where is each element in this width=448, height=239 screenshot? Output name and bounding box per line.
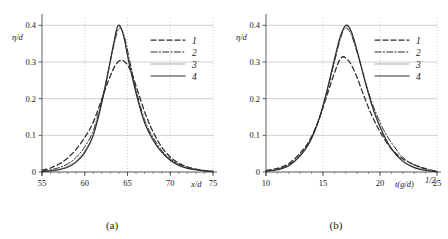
x-tick-label: 65 (123, 178, 132, 188)
y-tick-label: 0.3 (25, 57, 36, 67)
figure-container: 00.10.20.30.45560657075η/dx/d1234 (a) 00… (0, 0, 448, 239)
x-tick-label: 15 (319, 178, 328, 188)
y-axis-title: η/d (12, 32, 24, 42)
panel-b-caption: (b) (224, 219, 448, 231)
x-tick-label: 20 (376, 178, 385, 188)
curve-1 (42, 60, 213, 171)
x-axis-title: x/d (190, 179, 202, 189)
x-tick-label: 75 (209, 178, 218, 188)
x-axis-title-exponent: 1/2 (425, 175, 437, 185)
y-tick-label: 0.4 (25, 20, 36, 30)
x-tick-label: 10 (262, 178, 271, 188)
panel-a: 00.10.20.30.45560657075η/dx/d1234 (a) (0, 0, 224, 239)
curve-2 (266, 28, 437, 171)
legend-label-1: 1 (416, 36, 421, 46)
y-tick-label: 0.3 (249, 57, 260, 67)
y-tick-label: 0.2 (249, 94, 260, 104)
plot-area: 00.10.20.30.45560657075η/dx/d1234 (12, 14, 217, 189)
x-tick-label: 55 (38, 178, 47, 188)
y-tick-label: 0.2 (25, 94, 36, 104)
x-axis-title: t(g/d) (395, 179, 414, 189)
plot-area: 00.10.20.30.410152025η/dt(g/d)1/21234 (236, 14, 441, 189)
legend-label-1: 1 (192, 36, 197, 46)
y-axis-title: η/d (236, 32, 248, 42)
x-tick-label: 70 (166, 178, 175, 188)
panel-a-caption: (a) (0, 219, 224, 231)
legend-label-3: 3 (191, 60, 197, 70)
curve-4 (42, 25, 213, 172)
legend-label-4: 4 (192, 72, 197, 82)
panel-b: 00.10.20.30.410152025η/dt(g/d)1/21234 (b… (224, 0, 448, 239)
y-tick-label: 0 (32, 167, 36, 177)
y-tick-label: 0.1 (249, 130, 260, 140)
legend-label-2: 2 (416, 48, 421, 58)
legend-label-2: 2 (192, 48, 197, 58)
plot-b: 00.10.20.30.410152025η/dt(g/d)1/21234 (224, 0, 448, 200)
y-tick-label: 0 (256, 167, 260, 177)
x-tick-label: 60 (81, 178, 90, 188)
y-tick-label: 0.1 (25, 130, 36, 140)
curve-1 (266, 57, 437, 172)
y-tick-label: 0.4 (249, 20, 260, 30)
legend-label-4: 4 (416, 72, 421, 82)
plot-a: 00.10.20.30.45560657075η/dx/d1234 (0, 0, 224, 200)
legend-label-3: 3 (415, 60, 421, 70)
